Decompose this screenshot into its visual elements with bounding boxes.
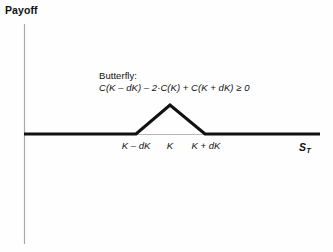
annotation-title: Butterfly:: [99, 71, 250, 81]
x-tick-label-k-minus-dk: K – dK: [122, 140, 151, 151]
payoff-plot: [0, 0, 333, 252]
x-tick-label-k: K: [167, 140, 173, 151]
butterfly-payoff-figure: Payoff ST Butterfly: C(K – dK) – 2·C(K) …: [0, 0, 333, 252]
annotation-formula: C(K – dK) – 2·C(K) + C(K + dK) ≥ 0: [99, 83, 250, 93]
butterfly-payoff-curve: [24, 105, 320, 134]
y-axis-label: Payoff: [5, 5, 38, 16]
x-axis-label: ST: [299, 142, 311, 153]
x-tick-label-k-plus-dk: K + dK: [192, 140, 221, 151]
x-axis-label-base: S: [299, 141, 306, 153]
butterfly-annotation: Butterfly: C(K – dK) – 2·C(K) + C(K + dK…: [99, 71, 250, 94]
x-axis-label-subscript: T: [306, 146, 311, 155]
